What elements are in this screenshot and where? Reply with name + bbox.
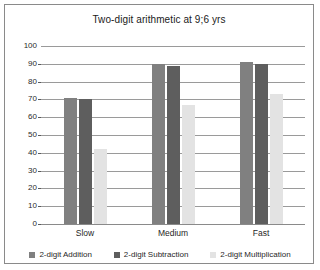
chart-title: Two-digit arithmetic at 9;6 yrs <box>5 14 313 25</box>
bar <box>94 149 107 224</box>
legend-swatch-icon <box>29 252 35 258</box>
y-axis-tick-label: 50 <box>11 131 37 139</box>
x-axis-category-labels: SlowMediumFast <box>41 228 305 242</box>
legend-swatch-icon <box>210 252 216 258</box>
bar <box>255 64 268 224</box>
y-axis-tick-label: 60 <box>11 113 37 121</box>
legend-label: 2-digit Subtraction <box>124 250 188 259</box>
legend-swatch-icon <box>114 252 120 258</box>
legend-label: 2-digit Addition <box>39 250 91 259</box>
legend-item[interactable]: 2-digit Addition <box>29 250 91 259</box>
y-axis-tick-label: 70 <box>11 95 37 103</box>
y-axis-tick-labels: 0102030405060708090100 <box>9 46 37 224</box>
x-axis-tick-label: Slow <box>76 228 94 238</box>
legend-item[interactable]: 2-digit Multiplication <box>210 250 290 259</box>
bar <box>270 94 283 224</box>
bar-group <box>240 46 283 224</box>
chart-legend: 2-digit Addition2-digit Subtraction2-dig… <box>5 250 315 259</box>
y-axis-tick-label: 40 <box>11 149 37 157</box>
bar-group <box>64 46 107 224</box>
bar <box>64 98 77 224</box>
bar <box>182 105 195 224</box>
gridline <box>41 224 305 225</box>
y-axis-tick-label: 0 <box>11 220 37 228</box>
y-axis-tick-label: 90 <box>11 60 37 68</box>
plot-area <box>41 46 305 224</box>
y-axis-tick-label: 20 <box>11 184 37 192</box>
bar <box>167 66 180 224</box>
bar <box>152 64 165 224</box>
legend-label: 2-digit Multiplication <box>220 250 290 259</box>
y-axis-tick-label: 30 <box>11 167 37 175</box>
bar-group <box>152 46 195 224</box>
bar <box>240 62 253 224</box>
x-axis-tick-label: Medium <box>158 228 188 238</box>
x-axis-tick-label: Fast <box>253 228 270 238</box>
bars-layer <box>41 46 305 224</box>
y-axis-tick-label: 10 <box>11 202 37 210</box>
chart-frame: Two-digit arithmetic at 9;6 yrs 01020304… <box>4 4 314 264</box>
legend-item[interactable]: 2-digit Subtraction <box>114 250 188 259</box>
bar <box>79 99 92 224</box>
y-axis-tick-label: 80 <box>11 78 37 86</box>
y-axis-tick-label: 100 <box>11 42 37 50</box>
